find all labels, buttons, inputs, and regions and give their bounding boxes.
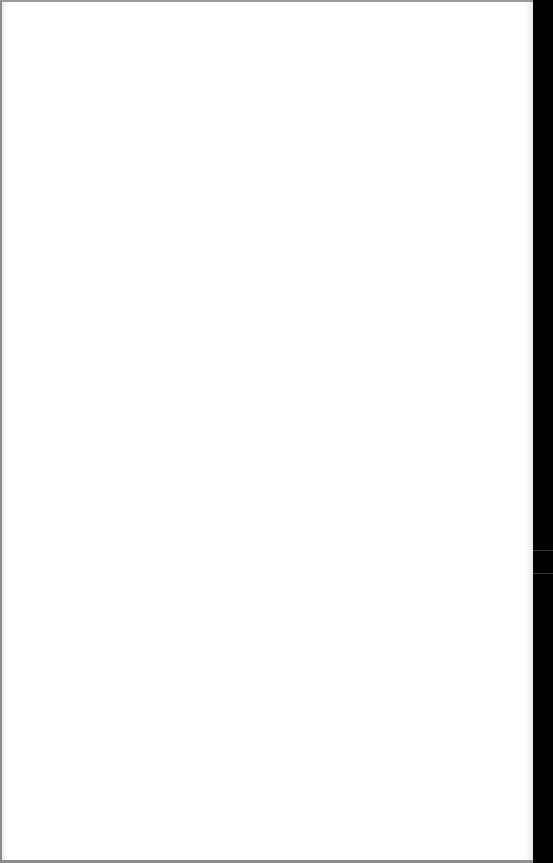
blank-page xyxy=(0,0,533,863)
screen xyxy=(0,0,553,863)
dark-side-strip xyxy=(533,0,553,863)
page-left-shadow xyxy=(2,2,8,860)
strip-separator xyxy=(533,573,553,574)
page-right-shadow xyxy=(525,2,533,860)
strip-separator xyxy=(533,550,553,551)
